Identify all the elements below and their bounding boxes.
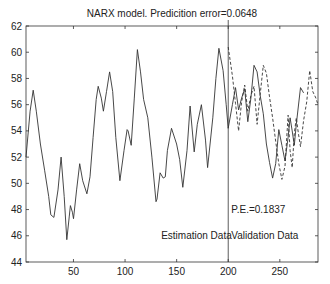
x-tick-label: 150 (168, 266, 185, 277)
y-tick-label: 52 (11, 152, 23, 163)
x-tick-label: 100 (117, 266, 134, 277)
y-tick-label: 60 (11, 47, 23, 58)
annotation-estimation-data: Estimation Data (161, 230, 232, 241)
y-tick-label: 46 (11, 230, 23, 241)
chart-title: NARX model. Predicition error=0.0648 (87, 8, 258, 19)
y-tick-label: 50 (11, 178, 23, 189)
chart: NARX model. Predicition error=0.0648 444… (0, 0, 330, 284)
y-tick-label: 62 (11, 21, 23, 32)
y-tick-label: 58 (11, 73, 23, 84)
annotation-validation-pe: P.E.=0.1837 (231, 204, 285, 215)
x-tick-label: 50 (68, 266, 80, 277)
plot-area-frame (26, 26, 318, 262)
annotation-validation-data: Validation Data (231, 230, 299, 241)
y-tick-label: 56 (11, 99, 23, 110)
x-tick-label: 200 (220, 266, 237, 277)
y-tick-label: 48 (11, 204, 23, 215)
x-tick-label: 250 (271, 266, 288, 277)
y-tick-label: 44 (11, 257, 23, 268)
y-tick-label: 54 (11, 125, 23, 136)
